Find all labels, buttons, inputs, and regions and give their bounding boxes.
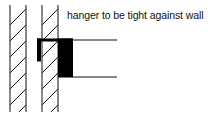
joist-box bbox=[73, 40, 117, 77]
annotation-label: hanger to be tight against wall bbox=[67, 9, 203, 21]
left-wall bbox=[10, 5, 30, 118]
